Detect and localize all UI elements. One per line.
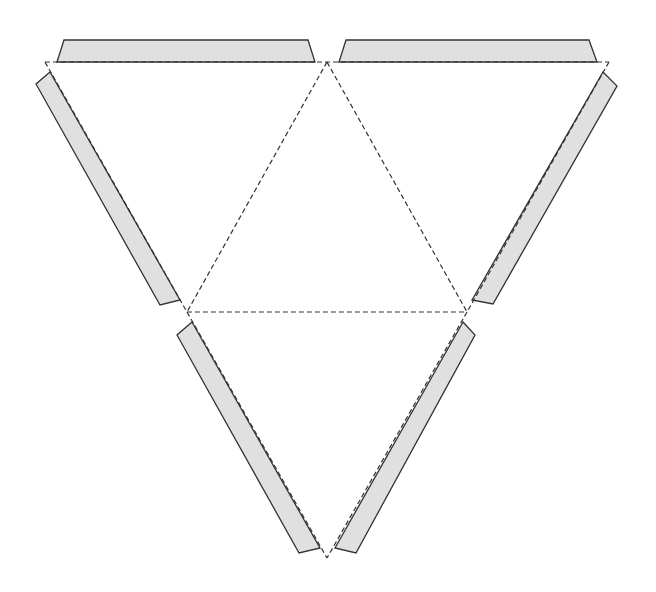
top-left-tab (57, 40, 315, 62)
face-bottom (187, 312, 467, 558)
tetrahedron-net-diagram (0, 0, 656, 592)
faces-layer (45, 62, 609, 558)
top-right-tab (339, 40, 597, 62)
